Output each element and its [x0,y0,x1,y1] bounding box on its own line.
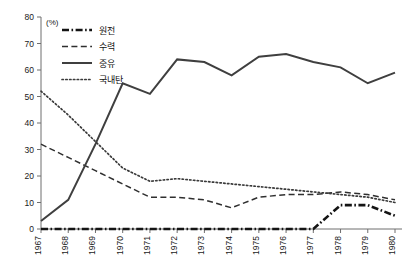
y-tick-label: 30 [25,145,35,155]
y-tick-label: 0 [29,224,34,234]
x-tick-label: 1973 [196,236,206,255]
x-tick-label: 1980 [387,236,397,255]
x-tick-label: 1972 [169,236,179,255]
y-tick-label: 50 [25,92,35,102]
y-tick-label: 70 [25,39,35,49]
line-chart: 01020304050607080 1967196819691970197119… [0,0,415,273]
legend-item: 원전 [62,26,115,36]
x-tick-label: 1975 [251,236,261,255]
legend-label: 중유 [99,59,115,69]
y-tick-label: 80 [25,12,35,22]
y-axis-unit-label: (%) [46,18,59,27]
x-tick-label: 1979 [360,236,370,255]
plot-area [41,54,395,229]
y-tick-label: 60 [25,65,35,75]
chart-legend: 원전수력중유국내탄 [62,26,123,86]
legend-item: 국내탄 [62,75,123,85]
series-line-solid [41,54,395,221]
x-tick-label: 1974 [224,236,234,255]
y-tick-label: 40 [25,118,35,128]
x-tick-label: 1968 [60,236,70,255]
series-line-dashed [41,144,395,208]
legend-item: 수력 [62,41,115,52]
y-tick-label: 20 [25,171,35,181]
x-tick-label: 1970 [115,236,125,255]
x-tick-label: 1978 [333,236,343,255]
y-tick-label: 10 [25,198,35,208]
x-tick-label: 1967 [33,236,43,255]
legend-label: 수력 [99,41,115,52]
legend-label: 원전 [99,26,115,36]
legend-item: 중유 [62,59,115,69]
series-line-dash-dot-thick [41,205,395,229]
chart-canvas: 01020304050607080 1967196819691970197119… [0,0,415,273]
legend-label: 국내탄 [99,75,123,85]
x-tick-label: 1977 [305,236,315,255]
x-tick-label: 1969 [87,236,97,255]
x-tick-label: 1976 [278,236,288,255]
y-axis: 01020304050607080 [25,12,41,234]
x-axis: 1967196819691970197119721973197419751976… [33,229,397,255]
x-tick-label: 1971 [142,236,152,255]
